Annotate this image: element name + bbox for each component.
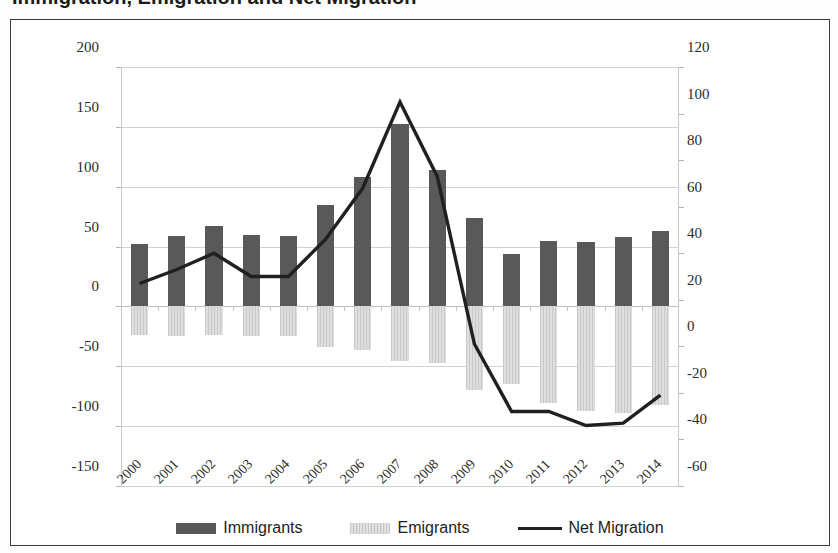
right-axis-tick-label: 100 bbox=[687, 87, 747, 102]
right-axis-tick bbox=[679, 207, 684, 208]
right-axis-tick bbox=[679, 253, 684, 254]
left-axis-tick-label: 0 bbox=[41, 279, 99, 294]
legend-item-emigrants[interactable]: Emigrants bbox=[350, 519, 469, 537]
legend-swatch-emigrants bbox=[350, 523, 390, 534]
right-axis-tick bbox=[679, 393, 684, 394]
net-migration-polyline bbox=[140, 102, 661, 426]
right-axis-tick bbox=[679, 114, 684, 115]
left-axis-tick-label: 150 bbox=[41, 100, 99, 115]
chart-page: Immigration, Emigration and Net Migratio… bbox=[0, 0, 838, 553]
left-axis-tick-label: 100 bbox=[41, 160, 99, 175]
right-axis-tick-label: 60 bbox=[687, 180, 747, 195]
right-axis-tick-label: 120 bbox=[687, 40, 747, 55]
right-axis-tick-label: 0 bbox=[687, 319, 747, 334]
chart-legend: Immigrants Emigrants Net Migration bbox=[10, 514, 830, 542]
right-axis-tick-label: -20 bbox=[687, 366, 747, 381]
legend-item-immigrants[interactable]: Immigrants bbox=[176, 519, 302, 537]
right-axis-tick-label: 20 bbox=[687, 273, 747, 288]
legend-label-net-migration: Net Migration bbox=[569, 519, 664, 537]
right-axis-tick bbox=[679, 160, 684, 161]
net-migration-line bbox=[121, 67, 679, 486]
page-title: Immigration, Emigration and Net Migratio… bbox=[12, 0, 416, 9]
right-axis-tick-label: 80 bbox=[687, 133, 747, 148]
chart-title-strip: Immigration, Emigration and Net Migratio… bbox=[0, 0, 838, 18]
legend-label-emigrants: Emigrants bbox=[397, 519, 469, 537]
right-axis-tick-label: 40 bbox=[687, 226, 747, 241]
right-axis-tick bbox=[679, 346, 684, 347]
left-axis-tick bbox=[116, 486, 121, 487]
plot-area bbox=[121, 67, 679, 486]
legend-label-immigrants: Immigrants bbox=[223, 519, 302, 537]
legend-swatch-immigrants bbox=[176, 523, 216, 534]
legend-item-net-migration[interactable]: Net Migration bbox=[518, 519, 664, 537]
right-axis-tick bbox=[679, 439, 684, 440]
left-axis-tick-label: 50 bbox=[41, 220, 99, 235]
right-axis-tick bbox=[679, 67, 684, 68]
legend-swatch-net-migration bbox=[518, 527, 562, 530]
left-axis-tick-label: 200 bbox=[41, 40, 99, 55]
left-axis-tick-label: -100 bbox=[41, 399, 99, 414]
gridline bbox=[121, 486, 679, 487]
chart-frame: 200150100500-50-100-150 120100806040200-… bbox=[10, 19, 830, 546]
right-axis-tick-label: -40 bbox=[687, 412, 747, 427]
right-axis-tick-label: -60 bbox=[687, 459, 747, 474]
right-axis-tick bbox=[679, 486, 684, 487]
left-axis-tick-label: -150 bbox=[41, 459, 99, 474]
right-axis-tick bbox=[679, 300, 684, 301]
left-axis-tick-label: -50 bbox=[41, 339, 99, 354]
